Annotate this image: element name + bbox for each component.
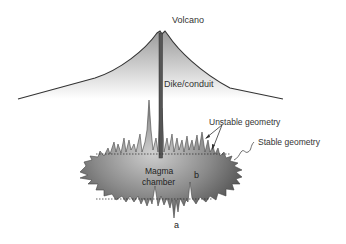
label-unstable-geometry: Unstable geometry xyxy=(209,118,280,127)
volcano-diagram xyxy=(0,0,346,244)
stable-squiggle xyxy=(234,142,254,160)
label-stable-geometry: Stable geometry xyxy=(258,138,320,147)
label-point-b: b xyxy=(194,171,199,180)
label-magma-chamber-line2: chamber xyxy=(142,178,175,187)
label-dike-conduit: Dike/conduit xyxy=(164,80,214,89)
dike-conduit xyxy=(159,33,163,158)
label-volcano: Volcano xyxy=(172,16,204,25)
label-magma-chamber-line1: Magma xyxy=(145,167,173,176)
label-point-a: a xyxy=(174,221,179,230)
unstable-arrow-1-head xyxy=(205,134,210,139)
